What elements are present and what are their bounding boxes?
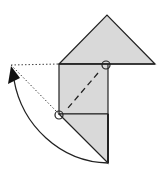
origami-diagram <box>0 0 166 177</box>
bottom-triangle <box>59 114 108 163</box>
top-triangle <box>59 15 155 64</box>
guide-line-diagonal <box>11 65 58 113</box>
guide-line-horizontal <box>11 64 59 65</box>
